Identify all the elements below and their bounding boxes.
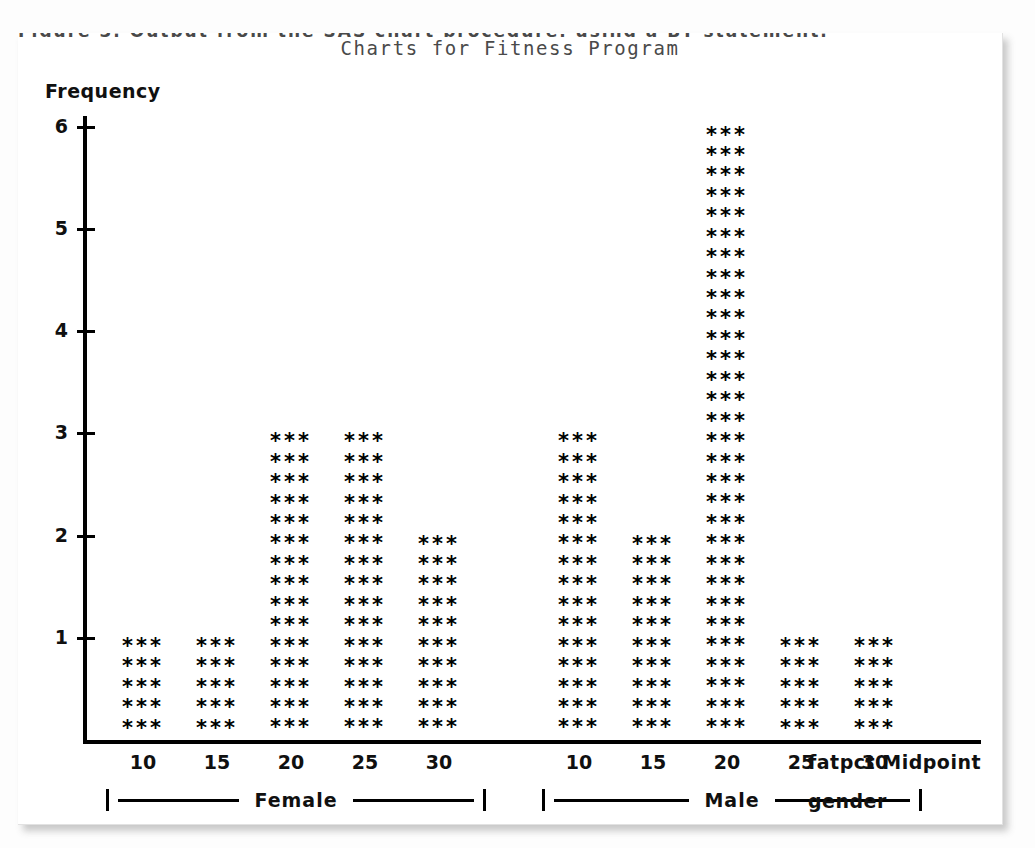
bracket-cap-left (106, 789, 109, 811)
group-label-male: Male (698, 789, 765, 811)
asterisk-row: *** (706, 227, 764, 247)
asterisk-row: *** (558, 513, 616, 533)
asterisk-row: *** (706, 656, 764, 676)
x-tick-label-3-25: 25 (336, 751, 394, 773)
chart-sheet: Figure 3. Output from the SAS chart proc… (18, 33, 1003, 825)
asterisk-row: *** (344, 513, 402, 533)
asterisk-row: *** (706, 288, 764, 308)
asterisk-row: *** (558, 554, 616, 574)
asterisk-row: *** (632, 677, 690, 697)
asterisk-row: *** (706, 186, 764, 206)
bracket-rule-right (353, 799, 474, 802)
asterisk-row: *** (344, 697, 402, 717)
group-label-female: Female (248, 789, 343, 811)
asterisk-row: *** (706, 268, 764, 288)
asterisk-row: *** (418, 595, 476, 615)
asterisk-row: *** (558, 636, 616, 656)
asterisk-row: *** (706, 145, 764, 165)
asterisk-row: *** (706, 554, 764, 574)
y-tick-label-6: 6 (46, 117, 68, 136)
asterisk-row: *** (632, 595, 690, 615)
asterisk-row: *** (418, 574, 476, 594)
asterisk-row: *** (706, 125, 764, 145)
bar-female-20: ****************************************… (270, 431, 328, 738)
asterisk-row: *** (632, 615, 690, 635)
asterisk-row: *** (854, 636, 912, 656)
asterisk-row: *** (706, 492, 764, 512)
group-bracket-female: Female (106, 788, 486, 812)
bar-male-15: ****************************** (632, 534, 690, 739)
asterisk-row: *** (418, 717, 476, 737)
bracket-rule-left (118, 799, 239, 802)
y-tick-label-2: 2 (46, 526, 68, 545)
asterisk-row: *** (780, 718, 838, 738)
asterisk-row: *** (270, 636, 328, 656)
bar-female-25: ****************************************… (344, 431, 402, 738)
asterisk-row: *** (706, 717, 764, 737)
asterisk-row: *** (632, 656, 690, 676)
asterisk-row: *** (780, 677, 838, 697)
asterisk-row: *** (344, 595, 402, 615)
asterisk-row: *** (344, 493, 402, 513)
asterisk-row: *** (270, 431, 328, 451)
asterisk-row: *** (270, 472, 328, 492)
x-tick-label-2-20: 20 (262, 751, 320, 773)
y-tick-label-3: 3 (46, 423, 68, 442)
asterisk-row: *** (418, 534, 476, 554)
asterisk-row: *** (344, 717, 402, 737)
x-axis-line (83, 740, 981, 744)
asterisk-row: *** (632, 534, 690, 554)
asterisk-row: *** (270, 656, 328, 676)
asterisk-row: *** (632, 636, 690, 656)
asterisk-row: *** (632, 717, 690, 737)
asterisk-row: *** (706, 574, 764, 594)
asterisk-row: *** (706, 472, 764, 492)
asterisk-row: *** (854, 718, 912, 738)
asterisk-row: *** (706, 533, 764, 553)
asterisk-row: *** (706, 615, 764, 635)
y-tick-mark-3 (77, 432, 95, 435)
bar-male-30: *************** (854, 636, 912, 738)
asterisk-row: *** (780, 636, 838, 656)
x-tick-label-5-10: 10 (550, 751, 608, 773)
asterisk-row: *** (706, 329, 764, 349)
x-tick-label-4-30: 30 (410, 751, 468, 773)
asterisk-row: *** (344, 574, 402, 594)
bar-female-30: ****************************** (418, 534, 476, 739)
asterisk-row: *** (122, 656, 180, 676)
asterisk-row: *** (418, 554, 476, 574)
asterisk-row: *** (270, 615, 328, 635)
asterisk-row: *** (854, 677, 912, 697)
asterisk-row: *** (706, 349, 764, 369)
asterisk-row: *** (344, 615, 402, 635)
asterisk-row: *** (270, 452, 328, 472)
asterisk-row: *** (270, 574, 328, 594)
asterisk-row: *** (196, 677, 254, 697)
asterisk-row: *** (706, 595, 764, 615)
asterisk-row: *** (418, 697, 476, 717)
asterisk-row: *** (706, 411, 764, 431)
bar-male-20: ****************************************… (706, 125, 764, 739)
asterisk-row: *** (706, 165, 764, 185)
asterisk-row: *** (706, 697, 764, 717)
asterisk-row: *** (196, 636, 254, 656)
asterisk-row: *** (196, 656, 254, 676)
y-tick-label-1: 1 (46, 628, 68, 647)
x-tick-label-0-10: 10 (114, 751, 172, 773)
bar-male-10: ****************************************… (558, 431, 616, 738)
group-axis-label: gender (808, 790, 887, 812)
asterisk-row: *** (706, 452, 764, 472)
asterisk-row: *** (632, 697, 690, 717)
y-tick-mark-2 (77, 535, 95, 538)
y-tick-label-4: 4 (46, 321, 68, 340)
asterisk-row: *** (270, 595, 328, 615)
asterisk-row: *** (344, 677, 402, 697)
asterisk-row: *** (706, 308, 764, 328)
asterisk-row: *** (706, 247, 764, 267)
plot-area: 654321 *********************************… (18, 33, 1002, 824)
asterisk-row: *** (270, 554, 328, 574)
asterisk-row: *** (270, 717, 328, 737)
asterisk-row: *** (780, 656, 838, 676)
asterisk-row: *** (270, 533, 328, 553)
asterisk-row: *** (558, 452, 616, 472)
